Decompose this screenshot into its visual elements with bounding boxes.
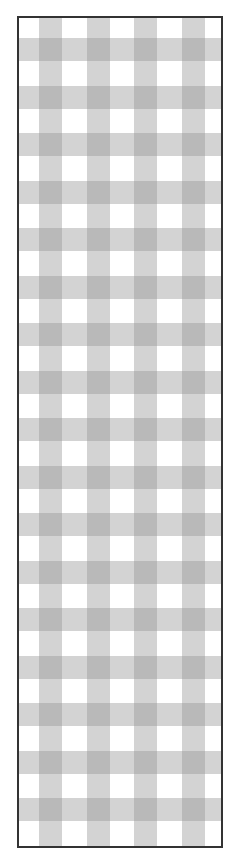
gingham-frame xyxy=(17,16,223,848)
horizontal-stripe xyxy=(19,798,221,821)
horizontal-stripe xyxy=(19,181,221,204)
horizontal-stripe xyxy=(19,561,221,584)
gingham-pattern xyxy=(19,18,221,846)
horizontal-stripe xyxy=(19,703,221,726)
horizontal-stripe xyxy=(19,656,221,679)
horizontal-stripe xyxy=(19,751,221,774)
horizontal-stripe xyxy=(19,418,221,441)
horizontal-stripe xyxy=(19,846,221,848)
horizontal-stripe xyxy=(19,608,221,631)
horizontal-stripe xyxy=(19,466,221,489)
horizontal-stripe xyxy=(19,228,221,251)
horizontal-stripe xyxy=(19,371,221,394)
horizontal-stripe xyxy=(19,513,221,536)
horizontal-stripe xyxy=(19,86,221,109)
horizontal-stripe xyxy=(19,276,221,299)
horizontal-stripe xyxy=(19,323,221,346)
horizontal-stripe xyxy=(19,38,221,61)
horizontal-stripe xyxy=(19,133,221,156)
